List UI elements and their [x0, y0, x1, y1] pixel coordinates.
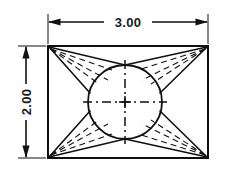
engineering-drawing-canvas: 3.00 2.00 — [0, 0, 229, 173]
dimension-label-horizontal: 3.00 — [115, 15, 142, 30]
dimension-label-vertical: 2.00 — [19, 89, 34, 116]
cad-drawing-svg: 3.00 2.00 — [0, 0, 229, 173]
